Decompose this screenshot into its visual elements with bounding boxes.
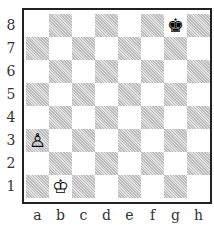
square-g6[interactable]	[164, 60, 187, 83]
square-f5[interactable]	[141, 83, 164, 106]
square-e7[interactable]	[118, 37, 141, 60]
square-c6[interactable]	[72, 60, 95, 83]
file-label: e	[118, 207, 141, 223]
file-label: b	[49, 207, 72, 223]
square-g1[interactable]	[164, 175, 187, 198]
square-d6[interactable]	[95, 60, 118, 83]
square-e6[interactable]	[118, 60, 141, 83]
square-a3[interactable]: ♙	[26, 129, 49, 152]
file-label: h	[187, 207, 210, 223]
square-b3[interactable]	[49, 129, 72, 152]
square-f7[interactable]	[141, 37, 164, 60]
square-g5[interactable]	[164, 83, 187, 106]
chess-board: ♚♙♔	[22, 8, 212, 204]
rank-label: 2	[4, 155, 18, 171]
rank-label: 5	[4, 86, 18, 102]
square-c4[interactable]	[72, 106, 95, 129]
square-g2[interactable]	[164, 152, 187, 175]
square-a8[interactable]	[26, 14, 49, 37]
file-label: f	[141, 207, 164, 223]
rank-label: 8	[4, 17, 18, 33]
square-d2[interactable]	[95, 152, 118, 175]
square-h1[interactable]	[187, 175, 210, 198]
square-a4[interactable]	[26, 106, 49, 129]
square-f2[interactable]	[141, 152, 164, 175]
file-label: c	[72, 207, 95, 223]
square-c3[interactable]	[72, 129, 95, 152]
square-b6[interactable]	[49, 60, 72, 83]
square-g3[interactable]	[164, 129, 187, 152]
file-label: a	[26, 207, 49, 223]
white-pawn-icon[interactable]: ♙	[29, 131, 46, 150]
rank-label: 4	[4, 109, 18, 125]
square-g8[interactable]: ♚	[164, 14, 187, 37]
square-e8[interactable]	[118, 14, 141, 37]
white-king-icon[interactable]: ♔	[52, 177, 69, 196]
rank-label: 1	[4, 178, 18, 194]
square-a7[interactable]	[26, 37, 49, 60]
square-f4[interactable]	[141, 106, 164, 129]
rank-label: 3	[4, 132, 18, 148]
square-c5[interactable]	[72, 83, 95, 106]
black-king-icon[interactable]: ♚	[167, 16, 184, 35]
square-b5[interactable]	[49, 83, 72, 106]
square-c7[interactable]	[72, 37, 95, 60]
square-g4[interactable]	[164, 106, 187, 129]
square-d1[interactable]	[95, 175, 118, 198]
square-e4[interactable]	[118, 106, 141, 129]
square-f3[interactable]	[141, 129, 164, 152]
file-label: g	[164, 207, 187, 223]
square-e3[interactable]	[118, 129, 141, 152]
square-a5[interactable]	[26, 83, 49, 106]
square-b8[interactable]	[49, 14, 72, 37]
square-c1[interactable]	[72, 175, 95, 198]
square-f8[interactable]	[141, 14, 164, 37]
square-b7[interactable]	[49, 37, 72, 60]
square-a6[interactable]	[26, 60, 49, 83]
square-e5[interactable]	[118, 83, 141, 106]
square-b2[interactable]	[49, 152, 72, 175]
square-d8[interactable]	[95, 14, 118, 37]
file-label: d	[95, 207, 118, 223]
square-h2[interactable]	[187, 152, 210, 175]
square-d7[interactable]	[95, 37, 118, 60]
square-a2[interactable]	[26, 152, 49, 175]
square-h6[interactable]	[187, 60, 210, 83]
square-b4[interactable]	[49, 106, 72, 129]
square-h5[interactable]	[187, 83, 210, 106]
square-c2[interactable]	[72, 152, 95, 175]
rank-label: 6	[4, 63, 18, 79]
square-c8[interactable]	[72, 14, 95, 37]
square-g7[interactable]	[164, 37, 187, 60]
square-f1[interactable]	[141, 175, 164, 198]
square-f6[interactable]	[141, 60, 164, 83]
square-e1[interactable]	[118, 175, 141, 198]
square-d5[interactable]	[95, 83, 118, 106]
rank-label: 7	[4, 40, 18, 56]
square-e2[interactable]	[118, 152, 141, 175]
square-h7[interactable]	[187, 37, 210, 60]
square-h4[interactable]	[187, 106, 210, 129]
square-d3[interactable]	[95, 129, 118, 152]
square-a1[interactable]	[26, 175, 49, 198]
square-h3[interactable]	[187, 129, 210, 152]
square-b1[interactable]: ♔	[49, 175, 72, 198]
square-h8[interactable]	[187, 14, 210, 37]
square-d4[interactable]	[95, 106, 118, 129]
